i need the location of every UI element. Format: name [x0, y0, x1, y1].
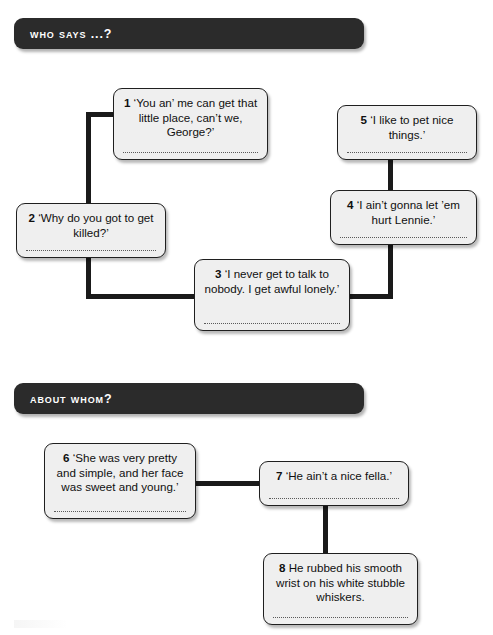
quote-box-5-number: 5	[361, 113, 367, 126]
quote-box-5[interactable]: 5 ‘I like to pet nice things.’	[337, 105, 477, 160]
answer-line-5[interactable]	[347, 143, 467, 153]
quote-box-5-text: 5 ‘I like to pet nice things.’	[347, 113, 467, 142]
connector-horizontal-box6-box7	[196, 481, 259, 486]
answer-line-4[interactable]	[340, 228, 467, 238]
answer-line-8[interactable]	[273, 608, 408, 618]
quote-box-4-text: 4 ‘I ain’t gonna let ’em hurt Lennie.’	[340, 198, 467, 227]
quote-box-8-number: 8	[279, 561, 285, 574]
quote-box-2-quote: ‘Why do you got to get killed?’	[38, 211, 153, 239]
quote-box-7-quote: ‘He ain’t a nice fella.’	[286, 469, 392, 482]
answer-line-1[interactable]	[123, 143, 258, 153]
quote-box-4-number: 4	[347, 198, 353, 211]
quote-box-7-text: 7 ‘He ain’t a nice fella.’	[269, 469, 399, 484]
connector-horizontal-to-box3-left	[86, 294, 199, 299]
quote-box-1-number: 1	[124, 96, 130, 109]
worksheet-page: Who says ...? 1 ‘You an’ me can get that…	[0, 0, 493, 635]
quote-box-1-text: 1 ‘You an’ me can get that little place,…	[123, 96, 258, 140]
connector-stub-box1	[86, 112, 116, 117]
answer-line-6[interactable]	[54, 502, 186, 512]
quote-box-2[interactable]: 2 ‘Why do you got to get killed?’	[16, 203, 166, 258]
answer-line-2[interactable]	[26, 241, 156, 251]
quote-box-6-number: 6	[63, 451, 69, 464]
quote-box-6-quote: ‘She was very pretty and simple, and her…	[57, 451, 184, 493]
quote-box-2-number: 2	[28, 211, 34, 224]
quote-box-4[interactable]: 4 ‘I ain’t gonna let ’em hurt Lennie.’	[330, 190, 477, 245]
section-banner-about-whom: About whom?	[14, 383, 364, 414]
quote-box-6[interactable]: 6 ‘She was very pretty and simple, and h…	[44, 443, 196, 519]
answer-line-7[interactable]	[269, 489, 399, 499]
connector-vertical-box7-box8	[323, 505, 328, 555]
scan-artifact	[14, 620, 104, 628]
quote-box-7[interactable]: 7 ‘He ain’t a nice fella.’	[259, 461, 409, 506]
connector-horizontal-to-box3-right	[348, 294, 393, 299]
answer-line-3[interactable]	[204, 314, 340, 324]
quote-box-4-quote: ‘I ain’t gonna let ’em hurt Lennie.’	[357, 198, 460, 226]
quote-box-3[interactable]: 3 ‘I never get to talk to nobody. I get …	[194, 259, 350, 331]
quote-box-1[interactable]: 1 ‘You an’ me can get that little place,…	[113, 88, 268, 160]
quote-box-8-quote: He rubbed his smooth wrist on his white …	[276, 561, 405, 603]
quote-box-3-quote: ‘I never get to talk to nobody. I get aw…	[205, 267, 340, 295]
quote-box-2-text: 2 ‘Why do you got to get killed?’	[26, 211, 156, 240]
quote-box-7-number: 7	[276, 469, 282, 482]
quote-box-8[interactable]: 8 He rubbed his smooth wrist on his whit…	[263, 553, 418, 625]
quote-box-1-quote: ‘You an’ me can get that little place, c…	[134, 96, 258, 138]
section-heading-about-whom: About whom?	[14, 392, 113, 406]
quote-box-8-text: 8 He rubbed his smooth wrist on his whit…	[273, 561, 408, 605]
quote-box-3-text: 3 ‘I never get to talk to nobody. I get …	[204, 267, 340, 296]
quote-box-5-quote: ‘I like to pet nice things.’	[370, 113, 453, 141]
quote-box-3-number: 3	[215, 267, 221, 280]
quote-box-6-text: 6 ‘She was very pretty and simple, and h…	[54, 451, 186, 495]
section-banner-who-says: Who says ...?	[14, 18, 364, 49]
section-heading-who-says: Who says ...?	[14, 27, 112, 41]
